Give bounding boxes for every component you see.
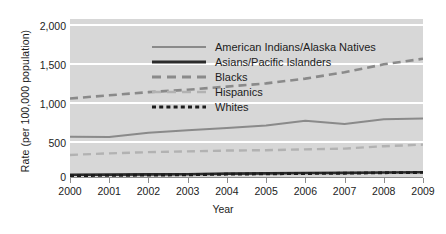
x-axis-line [70, 177, 423, 178]
y-axis-tick-label: 500 [22, 137, 66, 149]
x-axis-tick-label: 2003 [168, 185, 208, 197]
x-axis-tick-label: 2001 [89, 185, 129, 197]
x-axis-tick-mark [109, 178, 110, 183]
x-axis-tick-label: 2006 [285, 185, 325, 197]
plot-area: American Indians/Alaska Natives Asians/P… [70, 19, 423, 178]
y-axis-tick-label: 0 [22, 171, 66, 183]
y-axis-tick-label: 1,500 [22, 59, 66, 71]
x-axis-tick-mark [345, 178, 346, 183]
x-axis-tick-label: 2004 [207, 185, 247, 197]
legend-label: Hispanics [215, 86, 263, 98]
x-axis-tick-label: 2007 [325, 185, 365, 197]
x-axis-tick-mark [227, 178, 228, 183]
series-line-american-indians-alaska-natives [70, 118, 423, 137]
x-axis-tick-mark [384, 178, 385, 183]
x-axis-tick-label: 2009 [403, 185, 443, 197]
legend-item-american-indians-alaska-natives: American Indians/Alaska Natives [150, 40, 376, 54]
x-axis-tick-label: 2008 [364, 185, 404, 197]
legend-swatch-solid-gray-icon [150, 41, 208, 53]
x-axis-tick-label: 2000 [50, 185, 90, 197]
line-chart-figure: Rate (per 100,000 population) 2,000 1,50… [0, 0, 446, 234]
legend-swatch-dotted-black-icon [150, 101, 208, 113]
x-axis-tick-mark [423, 178, 424, 183]
legend-label: Whites [215, 101, 249, 113]
y-axis-tick-label: 1,000 [22, 98, 66, 110]
legend-item-hispanics: Hispanics [150, 85, 376, 99]
x-axis-tick-mark [188, 178, 189, 183]
legend-item-blacks: Blacks [150, 70, 376, 84]
legend-item-whites: Whites [150, 100, 376, 114]
x-axis-tick-mark [266, 178, 267, 183]
series-line-hispanics [70, 145, 423, 155]
legend-swatch-dashed-gray-icon [150, 71, 208, 83]
legend-swatch-solid-black-icon [150, 56, 208, 68]
x-axis-tick-mark [305, 178, 306, 183]
legend-item-asians-pacific-islanders: Asians/Pacific Islanders [150, 55, 376, 69]
legend-swatch-dashed-lightgray-icon [150, 86, 208, 98]
legend-label: American Indians/Alaska Natives [215, 41, 376, 53]
x-axis-title: Year [0, 203, 446, 215]
x-axis-tick-label: 2002 [128, 185, 168, 197]
x-axis-tick-mark [148, 178, 149, 183]
x-axis-tick-label: 2005 [246, 185, 286, 197]
x-axis-tick-mark [70, 178, 71, 183]
y-axis-tick-label: 2,000 [22, 20, 66, 32]
chart-legend: American Indians/Alaska Natives Asians/P… [150, 40, 376, 114]
legend-label: Blacks [215, 71, 247, 83]
legend-label: Asians/Pacific Islanders [215, 56, 331, 68]
